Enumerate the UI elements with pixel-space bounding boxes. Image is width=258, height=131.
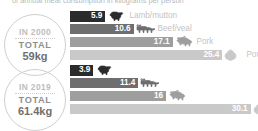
bar-value: 10.6	[115, 24, 131, 35]
badge-year-label: IN 2000	[19, 28, 51, 37]
bar-value: 3.9	[79, 65, 90, 76]
badge-total-value: 61.4kg	[18, 105, 52, 117]
bar-beef[interactable]: 10.6	[70, 24, 134, 35]
bar-value: 30.1	[232, 104, 248, 115]
meat-consumption-chart: of annual meat consumption in kilograms …	[0, 0, 258, 131]
bar-row-pork: 16	[70, 91, 256, 102]
bar-label: Poultry	[246, 50, 258, 61]
pig-icon	[175, 36, 194, 48]
badge-total-label: TOTAL	[19, 95, 52, 105]
badge-year-label: IN 2019	[19, 83, 51, 92]
bar-pork[interactable]: 16	[70, 91, 166, 102]
bar-beef[interactable]: 11.4	[70, 78, 138, 89]
bar-lamb[interactable]: 5.9	[70, 11, 105, 22]
chicken-icon	[224, 49, 237, 61]
bar-label: Pork	[197, 37, 214, 48]
bar-row-beef: 11.4	[70, 78, 256, 89]
total-badge-2000: IN 2000 TOTAL 59kg	[4, 14, 66, 76]
bar-value: 5.9	[91, 11, 102, 22]
bar-row-pork: 17.1Pork	[70, 37, 256, 48]
bar-value: 25.4	[203, 50, 219, 61]
chart-caption: of annual meat consumption in kilograms …	[12, 0, 258, 5]
bar-lamb[interactable]: 3.9	[70, 65, 93, 76]
bar-row-poultry: 25.4Poultry	[70, 50, 256, 61]
bar-label: Lamb/mutton	[129, 11, 177, 22]
bar-group-2019: 3.911.41630.1	[70, 65, 256, 117]
badge-total-value: 59kg	[22, 50, 47, 62]
bar-value: 17.1	[154, 37, 170, 48]
bar-row-lamb: 5.9Lamb/mutton	[70, 11, 256, 22]
badge-divider	[15, 93, 55, 94]
bar-label: Beef/veal	[158, 24, 192, 35]
total-badge-2019: IN 2019 TOTAL 61.4kg	[4, 69, 66, 131]
badge-divider	[15, 38, 55, 39]
bar-pork[interactable]: 17.1	[70, 37, 173, 48]
chicken-icon	[253, 103, 258, 115]
bar-group-2000: 5.9Lamb/mutton10.6Beef/veal17.1Pork25.4P…	[70, 11, 256, 63]
bar-value: 16	[154, 91, 163, 102]
cow-icon	[136, 24, 155, 35]
cow-icon	[140, 78, 159, 89]
bar-row-poultry: 30.1	[70, 104, 256, 115]
bar-poultry[interactable]: 25.4	[70, 50, 222, 61]
bar-row-beef: 10.6Beef/veal	[70, 24, 256, 35]
badge-total-label: TOTAL	[19, 40, 52, 50]
pig-icon	[168, 90, 187, 102]
bar-value: 11.4	[120, 78, 135, 89]
bar-poultry[interactable]: 30.1	[70, 104, 251, 115]
bar-row-lamb: 3.9	[70, 65, 256, 76]
sheep-icon	[95, 65, 112, 76]
sheep-icon	[107, 11, 124, 22]
